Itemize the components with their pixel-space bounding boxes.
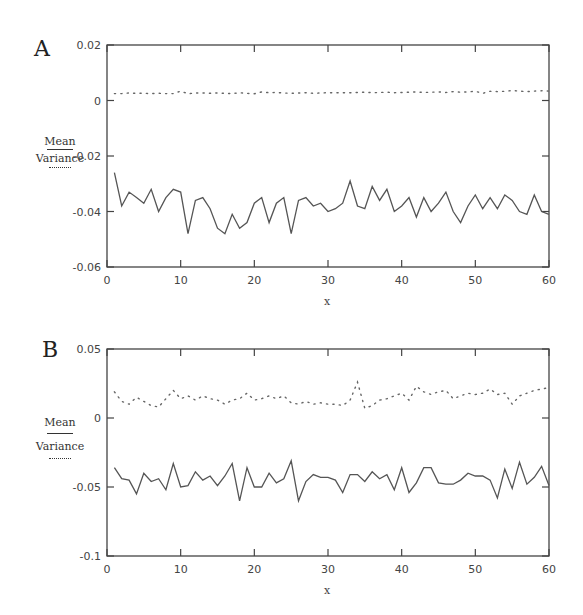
x-tick-label: 40 <box>395 274 409 287</box>
plot-frame <box>107 349 549 556</box>
series-mean <box>114 461 549 501</box>
x-tick-label: 30 <box>321 274 335 287</box>
series-variance <box>114 382 549 408</box>
x-tick-label: 40 <box>395 563 409 576</box>
x-tick-label: 30 <box>321 563 335 576</box>
x-tick-label: 0 <box>104 563 111 576</box>
x-tick-label: 0 <box>104 274 111 287</box>
x-tick-label: 60 <box>542 563 556 576</box>
chart-panel-a: 01020304050600.020-0.02-0.04-0.06x <box>73 39 556 308</box>
charts-canvas: 01020304050600.020-0.02-0.04-0.06x010203… <box>0 0 583 615</box>
y-tick-label: -0.06 <box>73 261 101 274</box>
y-tick-label: 0 <box>94 412 101 425</box>
plot-frame <box>107 45 549 267</box>
x-tick-label: 20 <box>247 274 261 287</box>
x-axis-title: x <box>324 584 331 597</box>
x-tick-label: 60 <box>542 274 556 287</box>
y-tick-label: 0.05 <box>77 343 102 356</box>
x-tick-label: 10 <box>174 274 188 287</box>
y-tick-label: -0.02 <box>73 150 101 163</box>
series-mean <box>114 173 549 234</box>
x-tick-label: 50 <box>468 274 482 287</box>
x-axis-title: x <box>324 295 331 308</box>
y-tick-label: -0.05 <box>73 481 101 494</box>
y-tick-label: -0.1 <box>80 550 101 563</box>
x-tick-label: 10 <box>174 563 188 576</box>
chart-panel-b: 01020304050600.050-0.05-0.1x <box>73 343 556 597</box>
series-variance <box>114 91 549 94</box>
y-tick-label: 0.02 <box>77 39 102 52</box>
y-tick-label: -0.04 <box>73 206 101 219</box>
x-tick-label: 20 <box>247 563 261 576</box>
y-tick-label: 0 <box>94 95 101 108</box>
x-tick-label: 50 <box>468 563 482 576</box>
